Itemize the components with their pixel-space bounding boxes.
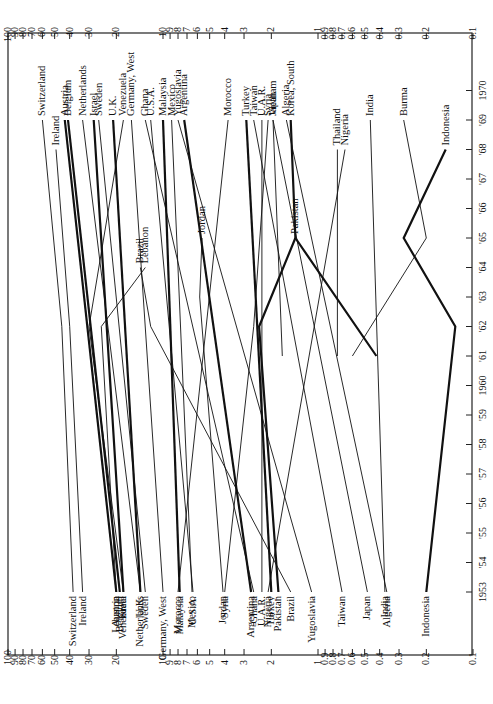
plot-border xyxy=(8,33,472,655)
series-start-label: Germany, West xyxy=(157,596,168,660)
year-tick-label: '66 xyxy=(477,203,488,215)
year-tick-label: '58 xyxy=(477,439,488,451)
value-tick-label: 40 xyxy=(64,27,75,37)
series-end-label: Ireland xyxy=(50,115,61,145)
series-end-label: U.K. xyxy=(107,96,118,116)
year-tick-label: 1970 xyxy=(477,81,488,101)
year-tick-label: '59 xyxy=(477,409,488,421)
series-end-label: Thailand xyxy=(331,107,342,145)
series-start-label: Brazil xyxy=(285,596,296,622)
value-tick-label: 0.5 xyxy=(359,653,370,666)
series-end-label: Argentina xyxy=(178,74,189,116)
series-line-ghana xyxy=(145,120,253,592)
series-start-label: Taiwan xyxy=(336,595,347,627)
value-tick-label: 0.1 xyxy=(467,27,478,40)
year-tick-label: '67 xyxy=(477,173,488,185)
year-tick-label: '54 xyxy=(477,557,488,569)
value-tick-label: 0.2 xyxy=(420,27,431,40)
value-tick-label: 5 xyxy=(204,660,215,665)
year-tick-label: '56 xyxy=(477,498,488,510)
value-tick-label: 5 xyxy=(204,27,215,32)
value-tick-label: 6 xyxy=(191,27,202,32)
series-start-label: Pakistan xyxy=(272,595,283,631)
value-tick-label: 0.5 xyxy=(359,27,370,40)
value-tick-label: 50 xyxy=(49,27,60,37)
series-line-algeria xyxy=(286,120,386,592)
year-tick-label: '68 xyxy=(477,144,488,156)
series-start-label: Nigeria xyxy=(262,596,273,628)
series-line-sweden xyxy=(99,120,146,592)
series-end-label: Burma xyxy=(398,87,409,116)
value-tick-label: 60 xyxy=(36,27,47,37)
series-end-label: Pakistan xyxy=(289,198,300,234)
series-end-label: India xyxy=(364,94,375,116)
value-tick-label: 40 xyxy=(64,655,75,665)
series-end-label: Sweden xyxy=(93,82,104,116)
value-tick-label: 0.2 xyxy=(420,653,431,666)
year-tick-label: '61 xyxy=(477,350,488,362)
chart: 1009080706050403020109876543210.90.80.70… xyxy=(0,0,493,704)
series-line-mexico xyxy=(172,120,192,592)
series-lines xyxy=(42,120,455,592)
series-end-label: Germany, West xyxy=(125,52,136,116)
value-axis-bottom: 1009080706050403020109876543210.90.80.70… xyxy=(2,649,478,665)
value-tick-label: 50 xyxy=(49,655,60,665)
value-tick-label: 0.4 xyxy=(374,27,385,40)
series-start-label: Japan xyxy=(361,595,372,620)
year-tick-label: '62 xyxy=(477,321,488,333)
series-start-label: Yugoslavia xyxy=(306,596,317,643)
value-tick-label: 6 xyxy=(191,660,202,665)
series-end-label: Korea, South xyxy=(285,60,296,116)
series-end-label: Indonesia xyxy=(440,104,451,145)
year-tick-label: '64 xyxy=(477,262,488,274)
series-line-jordan xyxy=(200,238,223,592)
series-line-korea-south xyxy=(291,120,377,356)
series-end-label: Jordan xyxy=(196,205,207,234)
series-line-india xyxy=(370,120,385,592)
value-tick-label: 2 xyxy=(265,27,276,32)
series-line-burma xyxy=(352,120,426,356)
series-end-label: Morocco xyxy=(222,78,233,116)
year-axis: 1953'54'55'56'57'58'591960'61'62'63'64'6… xyxy=(466,81,488,603)
plot-frame xyxy=(8,33,472,655)
series-start-label: Lebanon xyxy=(110,595,121,632)
series-line-vietnam xyxy=(273,120,282,356)
series-start-label: Ireland xyxy=(77,595,88,625)
value-tick-label: 0.3 xyxy=(393,653,404,666)
year-tick-label: 1953 xyxy=(477,582,488,602)
series-end-label: Japan xyxy=(267,91,278,116)
year-tick-label: '69 xyxy=(477,114,488,126)
series-start-label: Indonesia xyxy=(420,596,431,637)
value-tick-label: 4 xyxy=(219,660,230,665)
value-tick-label: 0.3 xyxy=(393,27,404,40)
year-tick-label: '65 xyxy=(477,232,488,244)
series-start-label: Algeria xyxy=(381,596,392,628)
series-end-label: U.A.R. xyxy=(256,86,267,116)
series-end-label: Netherlands xyxy=(77,65,88,116)
value-tick-label: 70 xyxy=(26,655,37,665)
value-tick-label: 0.6 xyxy=(346,27,357,40)
value-axis-top: 1009080706050403020109876543210.90.80.70… xyxy=(2,27,478,42)
series-line-morocco xyxy=(178,120,228,592)
value-tick-label: 30 xyxy=(83,655,94,665)
value-tick-label: 0.1 xyxy=(467,653,478,666)
series-line-switzerland xyxy=(42,120,73,592)
value-tick-label: 20 xyxy=(110,27,121,37)
series-start-label: Syria xyxy=(219,596,230,619)
series-start-label: Mexico xyxy=(186,596,197,628)
year-tick-label: 1960 xyxy=(477,376,488,396)
value-tick-label: 60 xyxy=(36,655,47,665)
series-labels: SwitzerlandSwitzerlandIrelandIrelandAust… xyxy=(36,52,450,660)
series-end-label: Belgium xyxy=(62,80,73,116)
year-tick-label: '55 xyxy=(477,527,488,539)
series-start-label: U.K. xyxy=(134,596,145,616)
value-tick-label: 0.7 xyxy=(336,653,347,666)
value-tick-label: 7 xyxy=(181,27,192,32)
series-start-label: Argentina xyxy=(245,596,256,638)
value-tick-label: 30 xyxy=(83,27,94,37)
value-tick-label: 3 xyxy=(238,27,249,32)
value-tick-label: 70 xyxy=(26,27,37,37)
series-line-indonesia xyxy=(404,150,456,593)
value-tick-label: 3 xyxy=(238,660,249,665)
year-tick-label: '63 xyxy=(477,291,488,303)
